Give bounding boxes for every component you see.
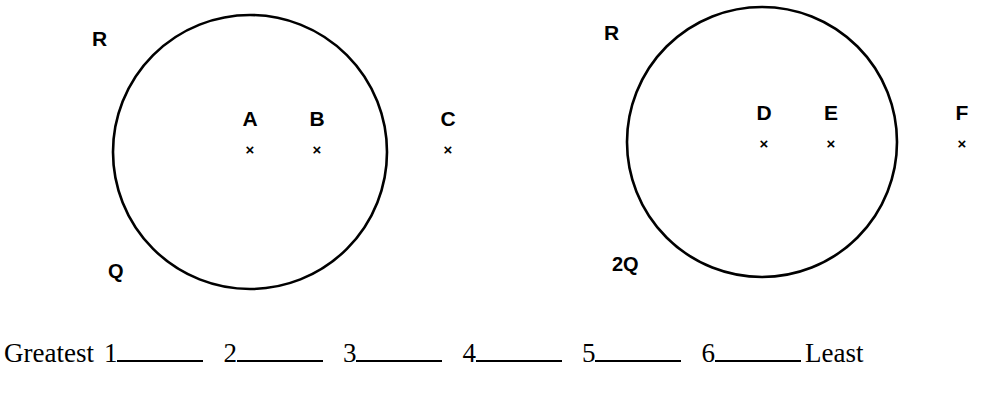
ranking-slot-1-number: 1 <box>104 336 118 370</box>
point-label-e: E <box>820 102 842 123</box>
diagram-area: R Q A × B × C × R 2Q D × E × F × <box>0 0 1002 310</box>
ranking-slot-4-blank[interactable] <box>476 338 562 362</box>
ranking-slot-4[interactable]: 4 <box>462 336 582 370</box>
spheres-svg <box>0 0 1002 310</box>
point-label-b: B <box>306 108 328 129</box>
sphere-left-radius-label: R <box>92 28 107 49</box>
ranking-slot-2-number: 2 <box>223 336 237 370</box>
point-label-d: D <box>753 102 775 123</box>
point-label-f: F <box>951 102 973 123</box>
ranking-slot-1[interactable]: 1 <box>104 336 224 370</box>
point-marker-a-icon: × <box>239 142 261 157</box>
ranking-row: Greatest 1 2 3 4 5 6 <box>0 336 1002 380</box>
ranking-slot-6-blank[interactable] <box>715 338 801 362</box>
ranking-slot-5[interactable]: 5 <box>582 336 702 370</box>
sphere-right-charge-label: 2Q <box>612 254 639 275</box>
point-marker-f-icon: × <box>951 136 973 151</box>
sphere-left-charge-label: Q <box>108 261 124 282</box>
ranking-least-label: Least <box>805 336 863 370</box>
point-label-a: A <box>239 108 261 129</box>
ranking-slot-4-number: 4 <box>462 336 476 370</box>
point-marker-e-icon: × <box>820 136 842 151</box>
ranking-slot-6-number: 6 <box>701 336 715 370</box>
ranking-slot-5-blank[interactable] <box>595 338 681 362</box>
ranking-slot-2-blank[interactable] <box>237 338 323 362</box>
point-marker-b-icon: × <box>306 142 328 157</box>
point-marker-c-icon: × <box>437 142 459 157</box>
ranking-slot-2[interactable]: 2 <box>223 336 343 370</box>
ranking-slot-1-blank[interactable] <box>117 338 203 362</box>
ranking-slot-3-number: 3 <box>343 336 357 370</box>
point-label-c: C <box>437 108 459 129</box>
point-marker-d-icon: × <box>753 136 775 151</box>
ranking-slot-5-number: 5 <box>582 336 596 370</box>
ranking-greatest-label: Greatest <box>4 336 94 370</box>
ranking-slot-3-blank[interactable] <box>356 338 442 362</box>
figure-page: R Q A × B × C × R 2Q D × E × F × Greates… <box>0 0 1002 400</box>
sphere-right-radius-label: R <box>604 22 619 43</box>
ranking-slot-6[interactable]: 6 <box>701 336 805 370</box>
ranking-slot-3[interactable]: 3 <box>343 336 463 370</box>
